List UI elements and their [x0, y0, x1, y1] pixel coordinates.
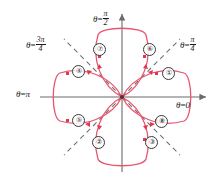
marker-top-right — [143, 55, 146, 58]
polar-rose-canvas — [0, 0, 222, 180]
fraction-denominator-pi4: 4 — [190, 45, 196, 53]
arc-number-4: ④ — [72, 65, 85, 78]
label-theta-zero: θ=0 — [176, 101, 190, 110]
polar-rose-figure: θ=0 θ=π θ=π2 θ=π4 θ=3π4 ① ② ③ ④ ⑤ ⑥ ⑦ ⑧ — [0, 0, 222, 180]
arc-number-1: ① — [162, 67, 175, 80]
fraction-pi-over-2: π2 — [103, 10, 109, 28]
label-theta-pi-over-4: θ=π4 — [180, 36, 196, 54]
arc-number-3: ③ — [145, 136, 158, 149]
fraction-pi-over-4: π4 — [190, 36, 196, 54]
fraction-denominator-pi2: 2 — [103, 19, 109, 27]
arrowhead-arc-6 — [143, 64, 148, 69]
arc-number-8: ⑧ — [155, 115, 168, 128]
arc-number-7: ⑦ — [93, 43, 106, 56]
arc-number-6: ⑥ — [143, 43, 156, 56]
arc-number-5: ⑤ — [72, 114, 85, 127]
label-theta-pi: θ=π — [16, 90, 30, 99]
fraction-3pi-over-4: 3π4 — [36, 36, 46, 54]
origin-point — [120, 95, 124, 99]
marker-left-lower — [66, 119, 69, 122]
label-theta-pi-over-2: θ=π2 — [93, 10, 109, 28]
fraction-denominator-3pi4: 4 — [36, 45, 46, 53]
marker-left-upper — [66, 72, 69, 75]
theta-value-0: 0 — [186, 100, 191, 110]
marker-right-upper — [155, 72, 158, 75]
arc-number-2: ② — [92, 136, 105, 149]
arrowhead-arc-3 — [143, 125, 148, 130]
theta-value-pi: π — [26, 89, 31, 99]
label-theta-3pi-over-4: θ=3π4 — [26, 36, 46, 54]
